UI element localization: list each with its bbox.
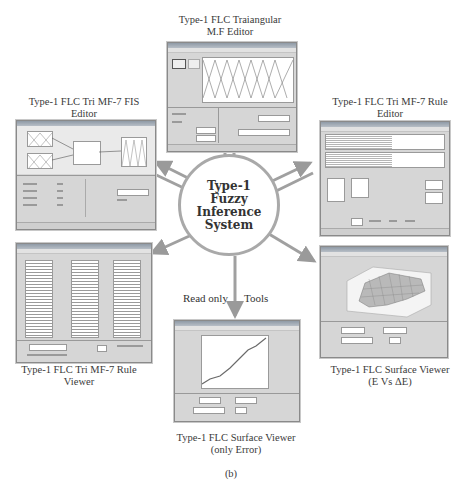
menu-bar	[17, 249, 151, 254]
fis-editor-window	[16, 120, 156, 230]
ref-input-field[interactable]	[341, 337, 373, 344]
x-axis-select[interactable]	[199, 397, 221, 404]
rules-list-1	[325, 134, 445, 150]
menu-bar	[321, 127, 449, 132]
figure-label: (b)	[216, 468, 246, 480]
then-list-1	[425, 180, 443, 190]
surface-viewer-e-de-caption: Type-1 FLC Surface Viewer (E Vs ΔE)	[318, 364, 462, 388]
rule-viewer-column-de	[71, 260, 99, 338]
x-axis-select[interactable]	[341, 327, 365, 334]
surface-viewer-e-de-window	[320, 246, 448, 358]
grid-points-field[interactable]	[235, 407, 247, 414]
triangular-mf-curves	[203, 58, 293, 102]
read-only-label: Read only	[183, 292, 228, 304]
y-axis-select[interactable]	[383, 327, 407, 334]
plot-points-field[interactable]	[97, 345, 107, 352]
mf-editor-caption: Type-1 FLC Traiangular M.F Editor	[160, 14, 300, 38]
error-curve	[202, 336, 268, 388]
fuzzy-inference-system-hub: Type-1 Fuzzy Inference System	[178, 154, 280, 256]
menu-bar	[321, 252, 447, 257]
menu-bar	[168, 48, 296, 53]
input-var-icon	[172, 59, 186, 69]
and-de-list	[351, 178, 369, 198]
surface-viewer-error-window	[174, 320, 300, 422]
y-axis-select[interactable]	[235, 397, 257, 404]
input-field[interactable]	[29, 344, 67, 351]
rule-viewer-caption: Type-1 FLC Tri MF-7 Rule Viewer	[4, 364, 154, 388]
rules-list-2	[325, 152, 445, 168]
rule-viewer-column-output	[113, 260, 141, 338]
arrow-hub-to-surface-viewer	[264, 231, 314, 261]
menu-bar	[175, 326, 299, 331]
rule-editor-caption: Type-1 FLC Tri MF-7 Rule Editor	[318, 96, 462, 120]
ref-input-field[interactable]	[193, 407, 225, 414]
mf-editor-window	[167, 42, 297, 152]
output-var-icon	[188, 59, 200, 69]
fis-editor-caption: Type-1 FLC Tri MF-7 FIS Editor	[4, 96, 164, 120]
rule-viewer-window	[16, 243, 152, 363]
delete-rule-button[interactable]	[351, 218, 363, 226]
grid-points-field[interactable]	[389, 337, 401, 344]
tools-label: Tools	[244, 292, 268, 304]
rule-editor-window	[320, 121, 450, 236]
then-list-2	[425, 192, 443, 204]
surface-viewer-error-caption: Type-1 FLC Surface Viewer (only Error)	[170, 432, 302, 456]
error-surface-plot	[201, 335, 269, 389]
mf-plot	[202, 57, 294, 103]
3d-surface-plot	[329, 261, 439, 319]
if-e-list	[327, 178, 345, 202]
rule-viewer-column-e	[25, 260, 53, 338]
hub-label: Type-1 Fuzzy Inference System	[181, 180, 277, 232]
